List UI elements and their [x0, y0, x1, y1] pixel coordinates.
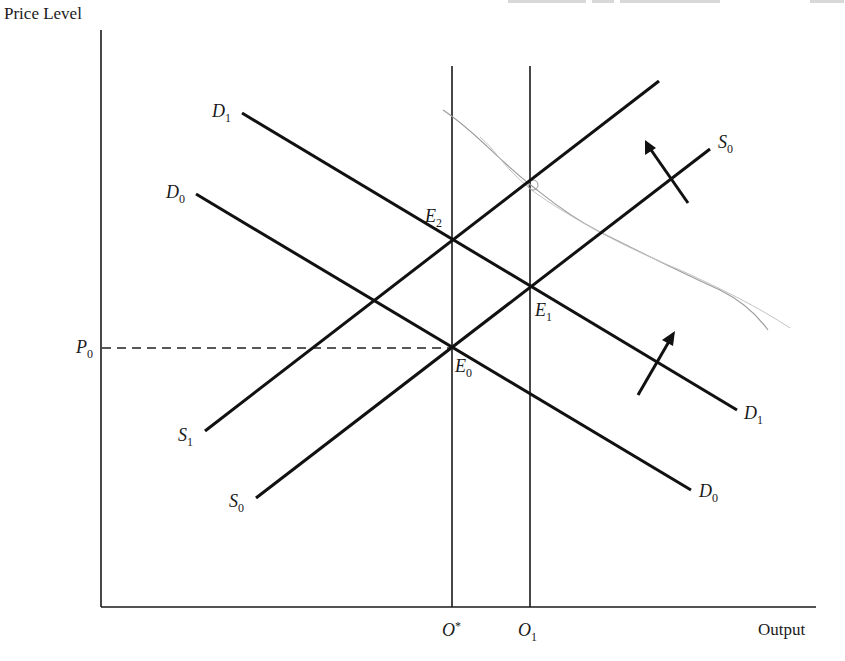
demand-curve-d1 — [242, 113, 737, 410]
d1-left-label: D1 — [211, 101, 231, 125]
s0-top-label: S0 — [718, 132, 733, 156]
d0-left-label: D0 — [165, 182, 185, 206]
chart-canvas: Price Level Output D1 D0 D1 D0 — [0, 0, 845, 661]
o1-label: O1 — [518, 620, 537, 644]
s0-bottom-label: S0 — [229, 491, 244, 515]
o-star-label: O* — [442, 619, 461, 640]
aggregate-supply-demand-chart: Price Level Output D1 D0 D1 D0 — [0, 0, 845, 661]
s1-bottom-label: S1 — [178, 425, 193, 449]
e0-label: E0 — [454, 356, 472, 380]
y-axis-label: Price Level — [4, 4, 82, 23]
demand-curve-d0 — [196, 194, 691, 490]
p0-label: P0 — [75, 337, 93, 361]
x-axis-label: Output — [758, 620, 806, 639]
d1-right-label: D1 — [743, 403, 763, 427]
e1-label: E1 — [534, 300, 552, 324]
d0-right-label: D0 — [698, 481, 718, 505]
supply-curve-s0 — [256, 149, 710, 498]
demand-shift-arrow-icon — [638, 331, 675, 395]
supply-curve-s1 — [205, 81, 659, 431]
page-header-fragment — [508, 0, 844, 3]
